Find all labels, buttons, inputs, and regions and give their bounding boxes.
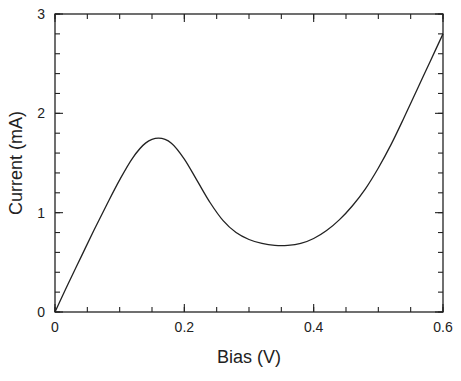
major-ticks (55, 14, 443, 312)
iv-curve (55, 34, 443, 312)
plot-frame (55, 14, 443, 312)
y-tick-labels: 0123 (37, 6, 45, 320)
y-tick-label: 3 (37, 6, 45, 22)
x-tick-label: 0.4 (304, 319, 324, 335)
x-tick-label: 0.6 (433, 319, 453, 335)
y-axis-title: Current (mA) (6, 111, 26, 215)
minor-ticks (55, 14, 443, 312)
y-tick-label: 0 (37, 304, 45, 320)
iv-chart: 00.20.40.6 0123 Bias (V) Current (mA) (0, 0, 461, 381)
x-axis-title: Bias (V) (217, 347, 281, 367)
y-tick-label: 1 (37, 205, 45, 221)
x-tick-label: 0.2 (175, 319, 195, 335)
x-tick-labels: 00.20.40.6 (51, 319, 453, 335)
x-tick-label: 0 (51, 319, 59, 335)
y-tick-label: 2 (37, 105, 45, 121)
